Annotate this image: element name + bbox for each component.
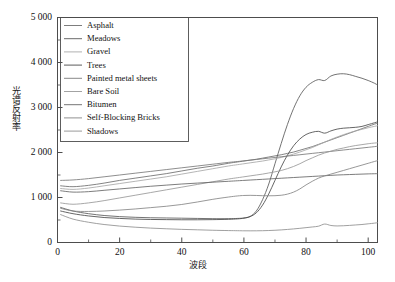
legend-label-self-blocking-bricks: Self-Blocking Bricks [87, 112, 160, 122]
x-tick-label: 20 [100, 247, 140, 257]
y-tick-label: 5 000 [0, 12, 52, 22]
x-tick-label: 0 [38, 247, 78, 257]
y-tick-label: 4 000 [0, 57, 52, 67]
y-tick-label: 1 000 [0, 192, 52, 202]
x-tick-label: 100 [348, 247, 388, 257]
x-axis-title: 波段 [0, 258, 395, 271]
series-line-self-blocking-bricks [61, 161, 378, 212]
spectral-reflectance-chart: 光谱反射率 波段 01 0002 0003 0004 0005 00002040… [0, 0, 395, 282]
legend-label-asphalt: Asphalt [87, 20, 114, 30]
series-line-shadows [61, 215, 378, 231]
legend-label-trees: Trees [87, 60, 106, 70]
legend-label-meadows: Meadows [87, 33, 120, 43]
x-tick-label: 80 [286, 247, 326, 257]
x-tick-label: 40 [162, 247, 202, 257]
y-tick-label: 0 [0, 237, 52, 247]
chart-canvas [0, 0, 395, 282]
x-tick-label: 60 [224, 247, 264, 257]
legend-label-bare-soil: Bare Soil [87, 86, 119, 96]
y-tick-label: 2 000 [0, 147, 52, 157]
series-line-bare-soil [61, 143, 378, 204]
legend-label-gravel: Gravel [87, 46, 110, 56]
legend-label-bitumen: Bitumen [87, 99, 117, 109]
legend-label-shadows: Shadows [87, 126, 118, 136]
y-tick-label: 3 000 [0, 102, 52, 112]
legend-label-painted-metal-sheets: Painted metal sheets [87, 73, 157, 83]
